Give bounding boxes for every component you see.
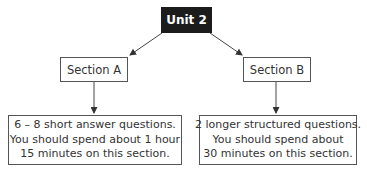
- section-a-node: Section A: [60, 57, 128, 82]
- arrow-root-to-section-a: [130, 33, 162, 55]
- section-a-detail-line: 6 – 8 short answer questions.: [14, 118, 176, 133]
- section-b-label: Section B: [250, 63, 304, 77]
- section-a-detail-line: You should spend about 1 hour: [10, 133, 180, 148]
- section-b-detail-line: 2 longer structured questions.: [195, 118, 361, 133]
- section-a-detail-box: 6 – 8 short answer questions. You should…: [8, 115, 182, 165]
- section-a-label: Section A: [67, 63, 121, 77]
- unit-2-label: Unit 2: [166, 13, 207, 27]
- unit-2-node: Unit 2: [161, 7, 212, 33]
- section-b-node: Section B: [243, 57, 311, 82]
- section-a-detail-line: 15 minutes on this section.: [20, 147, 169, 162]
- section-b-detail-line: 30 minutes on this section.: [203, 147, 352, 162]
- section-b-detail-line: You should spend about: [212, 133, 343, 148]
- arrow-root-to-section-b: [210, 33, 242, 55]
- section-b-detail-box: 2 longer structured questions. You shoul…: [199, 115, 357, 165]
